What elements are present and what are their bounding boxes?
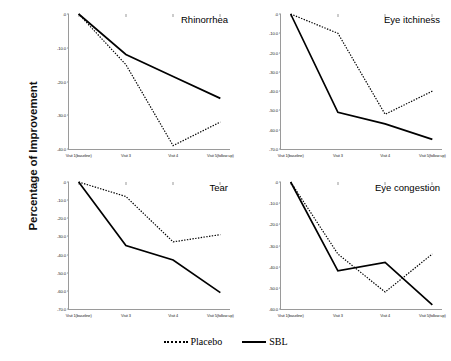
x-tick-label: Visit 3 xyxy=(333,313,343,318)
x-tick-label: Visit 1(baseline) xyxy=(278,313,304,318)
y-tick-label: -40.0 xyxy=(57,147,66,152)
y-tick-label: -60.0 xyxy=(269,307,278,312)
x-tick-label: Visit 5(follow up) xyxy=(419,313,446,318)
y-tick-label: -50.0 xyxy=(269,285,278,290)
series-line-sbl xyxy=(291,182,433,305)
x-tick-label: Visit 1(baseline) xyxy=(66,313,92,318)
y-tick-label: -50.0 xyxy=(57,270,66,275)
series-line-placebo xyxy=(291,14,433,114)
y-tick-label: -10.0 xyxy=(269,31,278,36)
y-tick-label: -20.0 xyxy=(269,50,278,55)
x-tick-label: Visit 5(follow up) xyxy=(419,153,446,158)
series-layer xyxy=(69,182,230,309)
solid-line-swatch-icon xyxy=(242,341,266,343)
x-tick-label: Visit 3 xyxy=(333,153,343,158)
series-line-placebo xyxy=(291,182,433,292)
panel-rhinorrhea: Rhinorrhea.0-10.0-20.0-30.0-40.0Visit 1(… xyxy=(28,6,234,176)
y-tick-label: -40.0 xyxy=(269,264,278,269)
x-tick-label: Visit 1(baseline) xyxy=(278,153,304,158)
figure-root: Percentage of Improvement Rhinorrhea.0-1… xyxy=(0,0,451,361)
y-tick-label: -40.0 xyxy=(57,252,66,257)
x-tick-label: Visit 3 xyxy=(121,153,131,158)
x-tick-label: Visit 5(follow up) xyxy=(207,313,234,318)
x-tick-label: Visit 4 xyxy=(380,153,390,158)
y-tick-label: -20.0 xyxy=(57,79,66,84)
x-tick-label: Visit 1(baseline) xyxy=(66,153,92,158)
series-line-placebo xyxy=(79,14,221,146)
legend: Placebo SBL xyxy=(0,336,451,347)
series-layer xyxy=(281,182,442,309)
y-tick-label: -60.0 xyxy=(57,288,66,293)
x-tick-label: Visit 5(follow up) xyxy=(207,153,234,158)
y-tick-label: -20.0 xyxy=(57,216,66,221)
y-tick-label: -30.0 xyxy=(269,243,278,248)
legend-item-sbl: SBL xyxy=(242,336,287,347)
y-tick-label: .0 xyxy=(63,180,66,185)
x-tick-label: Visit 4 xyxy=(168,153,178,158)
series-layer xyxy=(281,14,442,149)
x-tick-label: Visit 4 xyxy=(380,313,390,318)
y-tick-label: -70.0 xyxy=(269,147,278,152)
y-tick-label: -10.0 xyxy=(57,45,66,50)
panel-tear: Tear.0-10.0-20.0-30.0-40.0-50.0-60.0-70.… xyxy=(28,174,234,336)
dotted-line-swatch-icon xyxy=(164,341,188,343)
series-line-sbl xyxy=(79,14,221,98)
plot-area: .0-10.0-20.0-30.0-40.0-50.0-60.0Visit 1(… xyxy=(280,182,442,310)
y-tick-label: .0 xyxy=(63,12,66,17)
y-tick-label: -40.0 xyxy=(269,89,278,94)
y-tick-label: -10.0 xyxy=(57,198,66,203)
plot-area: .0-10.0-20.0-30.0-40.0Visit 1(baseline)V… xyxy=(68,14,230,150)
y-tick-label: -50.0 xyxy=(269,108,278,113)
y-tick-label: .0 xyxy=(275,12,278,17)
plot-area: .0-10.0-20.0-30.0-40.0-50.0-60.0-70.0Vis… xyxy=(68,182,230,310)
panel-eye-congestion: Eye congestion.0-10.0-20.0-30.0-40.0-50.… xyxy=(240,174,446,336)
y-tick-label: -60.0 xyxy=(269,127,278,132)
y-tick-label: -10.0 xyxy=(269,201,278,206)
series-layer xyxy=(69,14,230,149)
x-tick-label: Visit 3 xyxy=(121,313,131,318)
plot-area: .0-10.0-20.0-30.0-40.0-50.0-60.0-70.0Vis… xyxy=(280,14,442,150)
y-tick-label: -20.0 xyxy=(269,222,278,227)
panel-eye-itchiness: Eye itchiness.0-10.0-20.0-30.0-40.0-50.0… xyxy=(240,6,446,176)
legend-label-sbl: SBL xyxy=(269,336,287,347)
legend-label-placebo: Placebo xyxy=(191,336,223,347)
y-tick-label: -30.0 xyxy=(269,69,278,74)
legend-item-placebo: Placebo xyxy=(164,336,223,347)
panel-grid: Rhinorrhea.0-10.0-20.0-30.0-40.0Visit 1(… xyxy=(24,4,451,334)
y-tick-label: -30.0 xyxy=(57,113,66,118)
series-line-sbl xyxy=(291,14,433,139)
x-tick-label: Visit 4 xyxy=(168,313,178,318)
y-tick-label: .0 xyxy=(275,180,278,185)
y-tick-label: -30.0 xyxy=(57,234,66,239)
y-tick-label: -70.0 xyxy=(57,307,66,312)
